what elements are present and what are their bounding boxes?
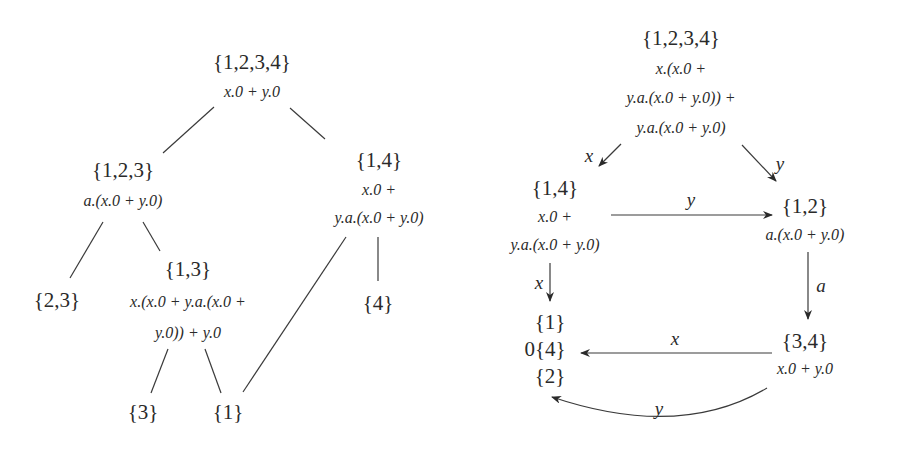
right-node-34-set: {3,4} [782, 331, 828, 352]
edge-1234-123 [163, 107, 214, 153]
left-node-14-expr-2: y.a.(x.0 + y.0) [335, 210, 424, 226]
left-node-13-expr-2: y.0)) + y.0 [155, 325, 221, 341]
right-node-1234-expr-3: y.a.(x.0 + y.0) [637, 120, 726, 136]
left-node-1234-expr: x.0 + y.0 [224, 84, 280, 100]
edge-label-34-bottom-y: y [655, 399, 663, 418]
right-node-bottom-line-3: {2} [535, 366, 566, 387]
edge-14-1 [243, 237, 346, 392]
right-node-14-expr-2: y.a.(x.0 + y.0) [511, 237, 600, 253]
right-node-1234-expr-2: y.a.(x.0 + y.0)) + [626, 90, 735, 106]
left-node-14-set: {1,4} [356, 150, 402, 171]
edge-13-3 [151, 349, 168, 393]
left-node-14-expr-1: x.0 + [362, 182, 396, 198]
left-node-4-set: {4} [363, 293, 394, 314]
edge-1234-14 [290, 108, 325, 139]
right-node-14-expr-1: x.0 + [538, 209, 572, 225]
right-node-12-set: {1,2} [782, 196, 828, 217]
arrow-1234-14 [599, 144, 621, 166]
right-node-bottom-line-1: {1} [535, 312, 566, 333]
right-node-34-expr: x.0 + y.0 [777, 361, 833, 377]
left-node-123-set: {1,2,3} [92, 160, 154, 181]
right-node-1234-set: {1,2,3,4} [642, 28, 720, 49]
edge-label-14-bottom: x [535, 273, 543, 292]
left-node-3-set: {3} [128, 402, 159, 423]
right-node-12-expr: a.(x.0 + y.0) [766, 227, 845, 243]
left-node-123-expr: a.(x.0 + y.0) [84, 193, 163, 209]
arrow-1234-12 [742, 145, 776, 181]
edge-label-34-bottom-x: x [671, 329, 679, 348]
edge-123-23 [70, 222, 103, 278]
left-node-13-expr-1: x.(x.0 + y.a.(x.0 + [130, 294, 246, 310]
right-node-14-set: {1,4} [532, 178, 578, 199]
left-node-13-set: {1,3} [165, 259, 211, 280]
edge-label-1234-12: y [776, 154, 784, 173]
edge-label-12-34: a [816, 276, 826, 295]
left-node-23-set: {2,3} [34, 290, 80, 311]
right-node-1234-expr-1: x.(x.0 + [656, 61, 706, 77]
edge-label-14-12: y [687, 190, 695, 209]
left-node-1234-set: {1,2,3,4} [213, 52, 291, 73]
edge-123-13 [143, 222, 160, 251]
right-node-bottom-line-2: 0{4} [524, 339, 565, 360]
left-node-1-set: {1} [213, 402, 244, 423]
edge-13-1 [205, 349, 221, 393]
edge-label-1234-14: x [585, 146, 593, 165]
